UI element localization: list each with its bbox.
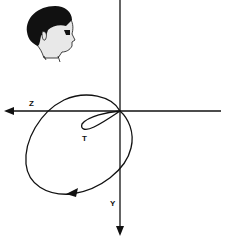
y-axis-arrow-icon (116, 226, 124, 236)
head-profile-icon (27, 6, 75, 62)
loop-direction-arrow-icon (66, 188, 78, 197)
qrs-loop-curve (26, 95, 132, 194)
t-loop-label: T (82, 134, 87, 143)
vector-loop-diagram: Z Y T (0, 0, 225, 240)
z-axis-label: Z (29, 99, 34, 108)
y-axis-label: Y (110, 199, 116, 208)
t-loop-curve (82, 111, 120, 129)
z-axis-arrow-icon (4, 107, 14, 115)
